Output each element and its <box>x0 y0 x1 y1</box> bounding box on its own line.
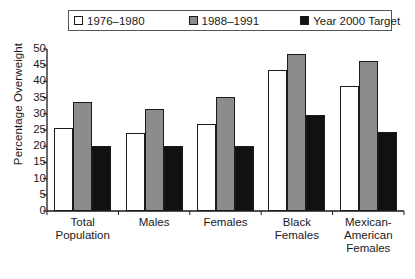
legend-swatch-icon <box>74 16 83 25</box>
x-axis-category-label: Males <box>118 216 189 229</box>
bar <box>164 146 183 211</box>
bar <box>197 124 216 211</box>
legend-item-year-2000-target: Year 2000 Target <box>300 15 400 27</box>
bar <box>235 146 254 211</box>
bar-chart: Percentage Overweight 051015202530354045… <box>0 38 415 279</box>
chart-legend: 1976–1980 1988–1991 Year 2000 Target <box>68 10 392 31</box>
x-axis-category-label: BlackFemales <box>261 216 332 242</box>
legend-swatch-icon <box>189 16 198 25</box>
legend-label: 1988–1991 <box>202 15 260 27</box>
bar <box>306 115 325 211</box>
legend-swatch-icon <box>300 16 309 25</box>
bar <box>287 54 306 211</box>
bar <box>126 133 145 211</box>
bar <box>92 146 111 211</box>
bar <box>378 132 397 211</box>
legend-label: 1976–1980 <box>87 15 145 27</box>
x-axis-category-label: TotalPopulation <box>47 216 118 242</box>
bar-series-container: TotalPopulationMalesFemalesBlackFemalesM… <box>0 38 415 279</box>
bar <box>216 97 235 211</box>
bar <box>340 86 359 211</box>
legend-item-1988-1991: 1988–1991 <box>189 15 260 27</box>
bar <box>359 61 378 211</box>
bar <box>145 109 164 211</box>
bar <box>268 70 287 211</box>
legend-label: Year 2000 Target <box>313 15 400 27</box>
x-axis-category-label: Females <box>190 216 261 229</box>
x-axis-category-label: Mexican-AmericanFemales <box>333 216 404 255</box>
bar <box>54 128 73 211</box>
legend-item-1976-1980: 1976–1980 <box>74 15 145 27</box>
bar <box>73 102 92 211</box>
